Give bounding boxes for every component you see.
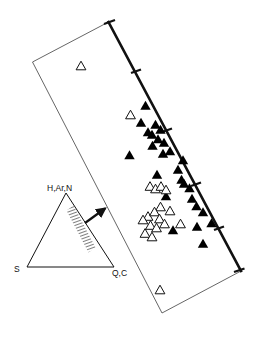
ternary-apex-label: H,Ar,N (47, 183, 72, 193)
ternary-left-label: S (14, 264, 20, 274)
scatter-plot-figure: H,Ar,N S Q,C (0, 0, 255, 342)
trend-arrow (85, 209, 105, 224)
field-outline (33, 22, 242, 313)
ternary-outline (27, 193, 114, 267)
ternary-right-label: Q,C (112, 268, 127, 278)
figure-root: H,Ar,N S Q,C (0, 0, 255, 342)
compositional-field (33, 22, 242, 313)
